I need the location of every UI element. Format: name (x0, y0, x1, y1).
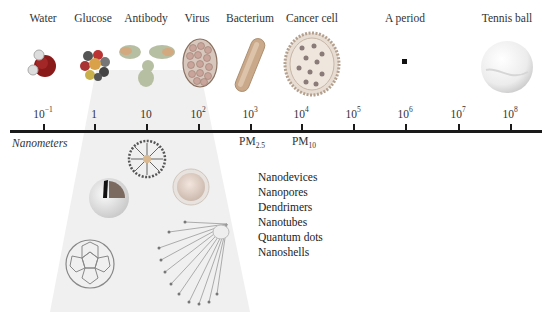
axis-tick (146, 124, 148, 131)
glucose-molecule-icon (78, 48, 112, 84)
nanotube-icon (155, 218, 235, 306)
axis-unit-label: Nanometers (12, 137, 68, 149)
list-item-nanopores: Nanopores (258, 185, 323, 200)
tick-label-1e4: 104 (293, 106, 308, 120)
tennis-ball-icon (480, 40, 534, 94)
cancer-cell-icon (284, 32, 340, 96)
axis-tick (43, 124, 45, 131)
list-item-nanotubes: Nanotubes (258, 215, 323, 230)
axis-tick (250, 124, 252, 131)
axis-tick (458, 124, 460, 131)
object-label-cancer-cell: Cancer cell (286, 12, 338, 24)
list-item-nanodevices: Nanodevices (258, 170, 323, 185)
bacterium-icon (234, 36, 266, 94)
tick-label-10: 10 (140, 106, 152, 120)
object-label-period: A period (385, 12, 425, 24)
tick-label-1: 1 (91, 106, 97, 120)
object-label-tennis-ball: Tennis ball (482, 12, 533, 24)
object-label-glucose: Glucose (74, 12, 112, 24)
nanomaterials-list: Nanodevices Nanopores Dendrimers Nanotub… (258, 170, 323, 260)
period-dot-icon (402, 59, 407, 64)
object-label-virus: Virus (185, 12, 210, 24)
axis-tick (353, 124, 355, 131)
tick-label-1e7: 107 (450, 106, 465, 120)
axis-tick (94, 124, 96, 131)
object-label-antibody: Antibody (124, 12, 167, 24)
axis-tick (510, 124, 512, 131)
axis-tick (301, 124, 303, 131)
list-item-nanoshells: Nanoshells (258, 245, 323, 260)
object-label-water: Water (29, 12, 56, 24)
list-item-dendrimers: Dendrimers (258, 200, 323, 215)
fullerene-icon (64, 238, 116, 290)
axis-tick (198, 124, 200, 131)
nanoshell-icon (88, 177, 130, 219)
pm25-marker: PM2.5 (239, 135, 265, 150)
list-item-quantum-dots: Quantum dots (258, 230, 323, 245)
tick-label-1e6: 106 (397, 106, 412, 120)
water-molecule-icon (27, 48, 61, 82)
virus-icon (182, 38, 218, 88)
tick-label-1e-1: 10−1 (33, 106, 52, 120)
scale-axis-line (10, 130, 542, 133)
tick-label-1e2: 102 (190, 106, 205, 120)
object-label-bacterium: Bacterium (226, 12, 274, 24)
tick-label-1e8: 108 (502, 106, 517, 120)
axis-tick (405, 124, 407, 131)
pm10-marker: PM10 (292, 135, 316, 150)
dendrimer-icon (127, 139, 167, 179)
quantum-dot-icon (172, 168, 210, 206)
antibody-icon (118, 42, 180, 92)
tick-label-1e3: 103 (242, 106, 257, 120)
tick-label-1e5: 105 (345, 106, 360, 120)
